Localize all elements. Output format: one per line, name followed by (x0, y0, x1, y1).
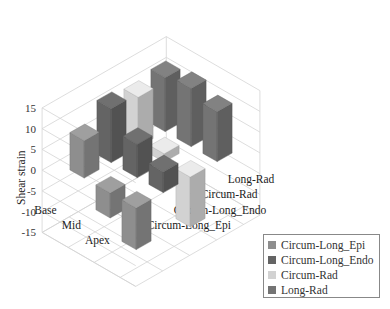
z-tick-label: 0 (31, 164, 37, 176)
bar (96, 176, 125, 218)
z-tick-label: -5 (27, 185, 37, 197)
z-tick-label: 15 (25, 102, 37, 114)
series-axis-label: Long-Rad (228, 173, 275, 186)
bar (151, 61, 180, 132)
bar (122, 191, 151, 249)
row-label: Mid (62, 219, 81, 231)
legend-label: Circum-Long_Epi (281, 239, 365, 251)
series-axis-label: Circum-Rad (201, 188, 258, 200)
legend-item: Circum-Long_Epi (268, 237, 379, 252)
legend-swatch (268, 286, 276, 294)
bar (203, 95, 232, 162)
legend-item: Long-Rad (268, 282, 379, 297)
legend-swatch (268, 241, 276, 249)
legend-swatch (268, 271, 276, 279)
z-tick-label: -15 (21, 226, 36, 238)
bar (176, 160, 205, 227)
legend-label: Circum-Long_Endo (281, 254, 374, 266)
legend-item: Circum-Long_Endo (268, 252, 379, 267)
legend-swatch (268, 256, 276, 264)
row-label: Base (34, 204, 56, 216)
z-tick-label: 5 (31, 143, 37, 155)
legend: Circum-Long_EpiCircum-Long_EndoCircum-Ra… (263, 234, 380, 298)
legend-label: Circum-Rad (281, 269, 338, 281)
legend-item: Circum-Rad (268, 267, 379, 282)
legend-label: Long-Rad (281, 284, 328, 296)
z-tick-label: 10 (25, 123, 37, 135)
bar (123, 128, 152, 178)
bar (177, 72, 206, 147)
z-axis-label: Shear strain (15, 150, 27, 205)
bar (97, 92, 126, 163)
bar (70, 124, 99, 178)
row-label: Apex (85, 234, 110, 247)
